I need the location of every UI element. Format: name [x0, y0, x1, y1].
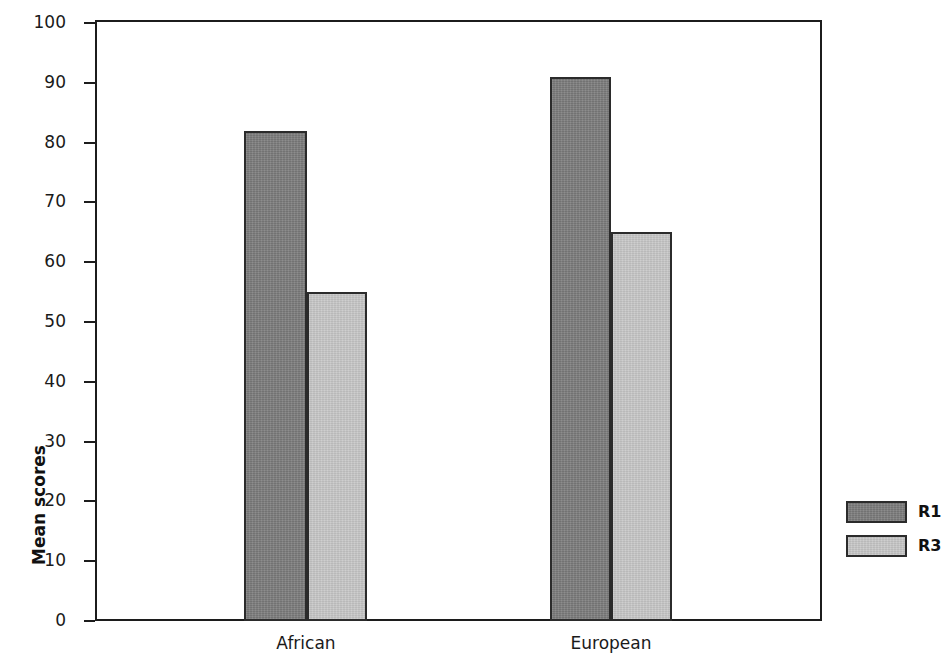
legend-item-r1: R1 — [846, 498, 951, 532]
bars-layer — [0, 0, 951, 663]
legend-label: R3 — [918, 537, 941, 555]
legend: R1R3 — [846, 498, 951, 566]
x-category-label: European — [511, 633, 711, 653]
legend-swatch-r1 — [846, 501, 907, 523]
legend-swatch-r3 — [846, 535, 907, 557]
x-category-label: African — [206, 633, 406, 653]
bar-r1-european — [550, 77, 611, 621]
legend-label: R1 — [918, 503, 941, 521]
bar-r1-african — [244, 131, 307, 621]
legend-item-r3: R3 — [846, 532, 951, 566]
bar-r3-european — [611, 232, 672, 621]
bar-r3-african — [307, 292, 367, 621]
bar-chart: Mean scores 1009080706050403020100 Afric… — [0, 0, 951, 663]
